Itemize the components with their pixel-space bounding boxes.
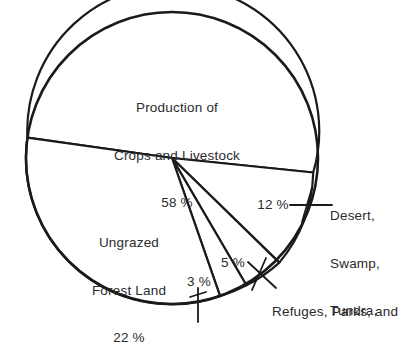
- slice-value-refuges: 5 %: [216, 255, 250, 271]
- slice-label-forest-line2: Forest Land: [58, 283, 200, 299]
- slice-label-desert-line2: Swamp,: [330, 256, 419, 272]
- slice-label-refuges: Refuges, Parks, and Public Installations: [272, 272, 419, 350]
- slice-label-refuges-line1: Refuges, Parks, and: [272, 304, 419, 320]
- slice-label-forest-line1: Ungrazed: [58, 235, 200, 251]
- slice-value-desert: 12 %: [252, 197, 294, 213]
- slice-label-desert-line1: Desert,: [330, 208, 419, 224]
- slice-label-crops-line1: Production of: [88, 100, 266, 116]
- slice-label-crops-line2: Crops and Livestock: [88, 148, 266, 164]
- pie-chart-figure: Production of Crops and Livestock 58 % U…: [0, 0, 419, 350]
- slice-value-urban: 3 %: [182, 274, 216, 290]
- slice-label-urban: Urban and Transportation Uses: [64, 324, 286, 350]
